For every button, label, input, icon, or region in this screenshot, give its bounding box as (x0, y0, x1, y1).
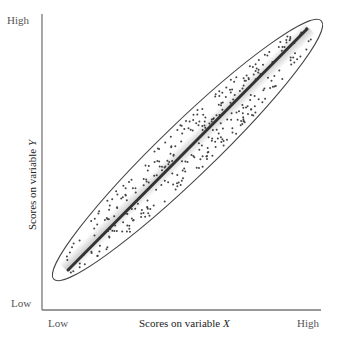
y-tick-low: Low (11, 297, 31, 309)
scatter-plot (0, 0, 342, 345)
y-axis-variable: Y (26, 140, 38, 146)
y-axis-title-text: Scores on variable (26, 146, 38, 230)
y-axis-title: Scores on variable Y (26, 140, 38, 230)
x-axis-title: Scores on variable X (139, 317, 230, 329)
x-axis-variable: X (223, 317, 230, 329)
x-tick-low: Low (48, 317, 68, 329)
x-tick-high: High (297, 317, 319, 329)
x-axis-title-text: Scores on variable (139, 317, 223, 329)
y-tick-high: High (7, 14, 29, 26)
regression-line (60, 23, 316, 275)
